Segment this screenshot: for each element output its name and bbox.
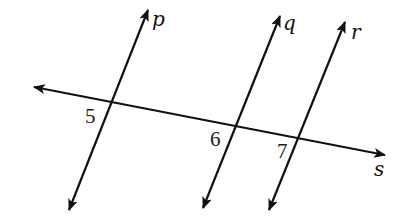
line-labels: spqr xyxy=(152,7,384,181)
angle-5-label: 5 xyxy=(85,104,96,128)
line-label-q: q xyxy=(283,11,296,35)
line-q xyxy=(203,16,280,208)
angle-6-label: 6 xyxy=(210,127,221,151)
line-label-r: r xyxy=(351,20,362,44)
line-p xyxy=(69,10,148,210)
diagram-svg: spqr 567 xyxy=(0,0,407,218)
angle-7-label: 7 xyxy=(277,139,288,163)
line-label-p: p xyxy=(152,7,165,31)
line-r xyxy=(269,22,345,210)
parallel-lines-diagram: spqr 567 xyxy=(0,0,407,218)
angle-labels: 567 xyxy=(85,104,288,163)
line-label-s: s xyxy=(374,157,384,181)
